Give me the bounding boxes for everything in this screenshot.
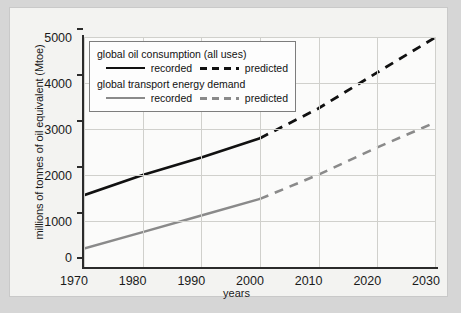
legend-dashed-swatch-oil — [200, 67, 239, 70]
x-tick-1970: 1970 — [44, 274, 104, 288]
x-tick-1990: 1990 — [161, 274, 221, 288]
x-tick-2030: 2030 — [396, 274, 456, 288]
x-tick-2020: 2020 — [337, 274, 397, 288]
x-tick-1980: 1980 — [103, 274, 163, 288]
legend-label-transport-recorded: recorded — [151, 91, 192, 105]
x-tick-2010: 2010 — [279, 274, 339, 288]
chart-panel: millions of tonnes of oil equivalent (Mt… — [10, 8, 447, 296]
x-axis-title: years — [0, 287, 461, 299]
gridline-2030 — [435, 37, 436, 267]
legend-solid-swatch-oil — [106, 67, 145, 69]
y-tick-1000: 1000 — [24, 215, 72, 229]
y-tick-4000: 4000 — [24, 77, 72, 91]
legend-group-title-oil: global oil consumption (all uses) — [97, 47, 288, 61]
gridline-2020 — [377, 37, 378, 267]
legend-label-oil-predicted: predicted — [245, 61, 288, 75]
gridline-1970 — [84, 37, 85, 267]
line-transport-demand-recorded — [84, 199, 260, 249]
y-tickmark-5000 — [77, 28, 83, 30]
y-tick-3000: 3000 — [24, 123, 72, 137]
y-tick-5000: 5000 — [24, 31, 72, 45]
legend-group-title-transport: global transport energy demand — [97, 77, 288, 91]
x-tick-2000: 2000 — [220, 274, 280, 288]
y-tick-0: 0 — [24, 251, 72, 265]
legend-row-oil: recorded predicted — [97, 61, 288, 75]
x-axis-line — [82, 267, 438, 269]
line-oil-consumption-recorded — [84, 138, 260, 195]
chart-figure: millions of tonnes of oil equivalent (Mt… — [0, 0, 461, 313]
legend-row-transport: recorded predicted — [97, 91, 288, 105]
line-transport-demand-predicted — [260, 122, 436, 199]
legend-label-oil-recorded: recorded — [151, 61, 192, 75]
gridline-2010 — [319, 37, 320, 267]
legend-dashed-swatch-transport — [200, 97, 239, 100]
chart-legend: global oil consumption (all uses) record… — [89, 41, 296, 112]
legend-solid-swatch-transport — [106, 97, 145, 99]
legend-label-transport-predicted: predicted — [245, 91, 288, 105]
y-tick-2000: 2000 — [24, 169, 72, 183]
